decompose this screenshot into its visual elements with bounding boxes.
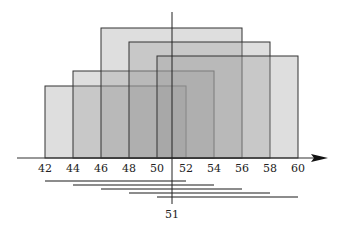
tick-label: 52: [179, 162, 193, 175]
tick-label: 46: [94, 162, 108, 175]
tick-label: 54: [207, 162, 221, 175]
diagram-canvas: 42 44 46 48 50 52 54 56 58 60 51: [0, 0, 339, 228]
tick-label: 50: [150, 162, 164, 175]
tick-label: 44: [66, 162, 80, 175]
window-rect-50-60: [157, 56, 298, 158]
tick-label: 48: [122, 162, 136, 175]
tick-label: 58: [263, 162, 277, 175]
marker-label: 51: [165, 208, 179, 221]
sliding-window-diagram: 42 44 46 48 50 52 54 56 58 60 51: [0, 0, 339, 228]
tick-label: 60: [291, 162, 305, 175]
tick-label: 42: [38, 162, 52, 175]
tick-label: 56: [235, 162, 249, 175]
